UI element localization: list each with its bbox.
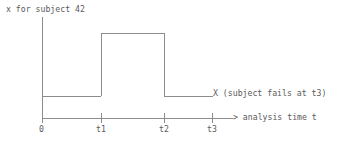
x-tick-label-t3: t3 bbox=[207, 124, 217, 134]
step-function-figure: x for subject 42 X (subject fails at t3)… bbox=[0, 0, 355, 142]
x-tick-label-t2: t2 bbox=[159, 124, 169, 134]
y-axis-title: x for subject 42 bbox=[6, 4, 85, 14]
failure-annotation: X (subject fails at t3) bbox=[213, 88, 326, 98]
x-tick-label-t1: t1 bbox=[96, 124, 106, 134]
x-axis-title: > analysis time t bbox=[233, 112, 317, 122]
x-tick-label-0: 0 bbox=[39, 124, 44, 134]
